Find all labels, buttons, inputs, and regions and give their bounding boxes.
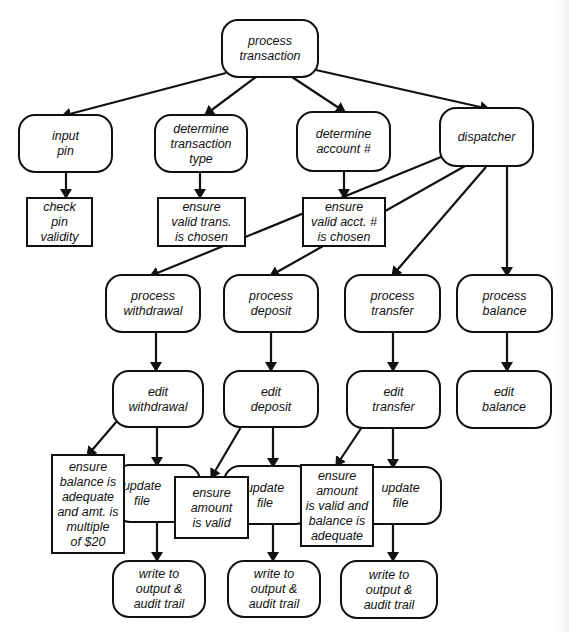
node-label-line: pin (50, 215, 68, 229)
node-process-withdrawal: processwithdrawal (106, 275, 200, 332)
node-process-transaction: processtransaction (222, 20, 318, 77)
node-label-line: input (52, 129, 80, 143)
node-label-line: is valid (192, 516, 231, 530)
node-label-line: multiple (66, 520, 109, 534)
node-label-line: determine (316, 127, 372, 141)
node-write-output-transfer: write tooutput &audit trail (341, 561, 437, 618)
node-label-line: update (381, 481, 419, 495)
node-label-line: edit (383, 385, 404, 399)
node-label-line: ensure (318, 469, 356, 483)
node-label-line: adequate (311, 529, 363, 543)
node-label-line: is chosen (175, 230, 228, 244)
page-edge-shadow (557, 0, 569, 632)
node-label-line: balance (482, 400, 526, 414)
node-label-line: check (43, 200, 76, 214)
nodes-layer: processtransactioninputpindeterminetrans… (19, 20, 552, 618)
node-label-line: write to (139, 567, 179, 581)
arrow-process-transaction-to-determine-transaction-type (205, 77, 256, 115)
node-label-line: ensure (325, 200, 363, 214)
node-ensure-amount-valid: ensureamountis valid (175, 477, 248, 538)
node-label-line: output & (136, 582, 183, 596)
node-label-line: dispatcher (458, 130, 517, 144)
arrow-edit-withdrawal-to-ensure-balance-adequate (87, 421, 117, 456)
node-label-line: valid trans. (171, 215, 231, 229)
node-edit-withdrawal: editwithdrawal (113, 371, 203, 427)
node-label-line: file (134, 494, 150, 508)
arrow-process-transaction-to-dispatcher (316, 70, 489, 109)
node-label-line: process (370, 289, 415, 303)
node-determine-transaction-type: determinetransactiontype (155, 115, 247, 172)
node-label-line: balance is (309, 514, 365, 528)
node-label-line: edit (261, 385, 282, 399)
node-label-line: update (246, 481, 284, 495)
arrow-process-transaction-to-input-pin (62, 73, 226, 116)
node-label-line: edit (148, 385, 169, 399)
node-ensure-valid-trans: ensurevalid trans.is chosen (158, 198, 245, 246)
node-label-line: deposit (251, 304, 292, 318)
node-label-line: transaction (239, 49, 300, 63)
node-label-line: account # (316, 142, 371, 156)
node-label-line: adequate (62, 490, 114, 504)
node-label-line: withdrawal (128, 400, 188, 414)
node-label-line: process (247, 34, 292, 48)
node-label-line: is valid and (306, 499, 370, 513)
node-label-line: amount (316, 484, 358, 498)
node-label-line: write to (254, 567, 294, 581)
node-label-line: transfer (371, 304, 414, 318)
arrow-edit-transfer-to-ensure-amount-valid-balance (336, 427, 362, 466)
node-label-line: output & (366, 583, 413, 597)
node-label-line: process (482, 289, 527, 303)
node-label-line: transfer (372, 400, 415, 414)
arrow-dispatcher-to-process-transfer (392, 167, 486, 276)
node-label-line: ensure (69, 460, 107, 474)
node-label-line: write to (369, 568, 409, 582)
node-label-line: validity (40, 230, 79, 244)
node-label-line: file (257, 496, 273, 510)
node-label-line: audit trail (249, 597, 301, 611)
node-label-line: transaction (170, 137, 231, 151)
node-label-line: withdrawal (123, 304, 183, 318)
node-determine-account: determineaccount # (297, 112, 390, 171)
node-label-line: process (248, 289, 293, 303)
node-label-line: update (123, 479, 161, 493)
arrow-process-transaction-to-determine-account (292, 77, 345, 112)
node-edit-balance: editbalance (457, 371, 551, 428)
node-write-output-deposit: write tooutput &audit trail (228, 561, 320, 617)
node-ensure-valid-acct: ensurevalid acct. #is chosen (303, 198, 385, 246)
node-input-pin: inputpin (19, 115, 112, 172)
node-label-line: balance is (60, 475, 116, 489)
node-label-line: and amt. is (57, 505, 118, 519)
node-label-line: output & (251, 582, 298, 596)
node-edit-transfer: edittransfer (347, 371, 440, 428)
node-check-pin-validity: checkpinvalidity (27, 198, 92, 246)
node-label-line: ensure (192, 486, 230, 500)
structure-chart: processtransactioninputpindeterminetrans… (0, 0, 569, 632)
node-label-line: amount (191, 501, 233, 515)
node-dispatcher: dispatcher (440, 108, 533, 166)
node-process-deposit: processdeposit (224, 275, 318, 332)
node-label-line: process (130, 289, 175, 303)
node-label-line: ensure (182, 200, 220, 214)
node-label-line: file (393, 496, 409, 510)
node-ensure-amount-valid-balance: ensureamountis valid andbalance isadequa… (301, 465, 373, 546)
node-process-balance: processbalance (457, 275, 552, 332)
node-label-line: audit trail (134, 597, 186, 611)
node-label-line: type (189, 152, 213, 166)
node-edit-deposit: editdeposit (224, 371, 318, 427)
node-write-output-withdrawal: write tooutput &audit trail (113, 561, 205, 617)
node-label-line: balance (483, 304, 527, 318)
node-ensure-balance-adequate: ensurebalance isadequateand amt. ismulti… (52, 455, 124, 553)
node-label-line: edit (494, 385, 515, 399)
node-process-transfer: processtransfer (345, 275, 440, 332)
node-label-line: is chosen (318, 230, 371, 244)
node-label-line: valid acct. # (311, 215, 378, 229)
node-label-line: determine (173, 122, 229, 136)
node-label-line: deposit (251, 400, 292, 414)
node-label-line: of $20 (71, 535, 106, 549)
node-label-line: audit trail (364, 598, 416, 612)
node-label-line: pin (56, 144, 74, 158)
